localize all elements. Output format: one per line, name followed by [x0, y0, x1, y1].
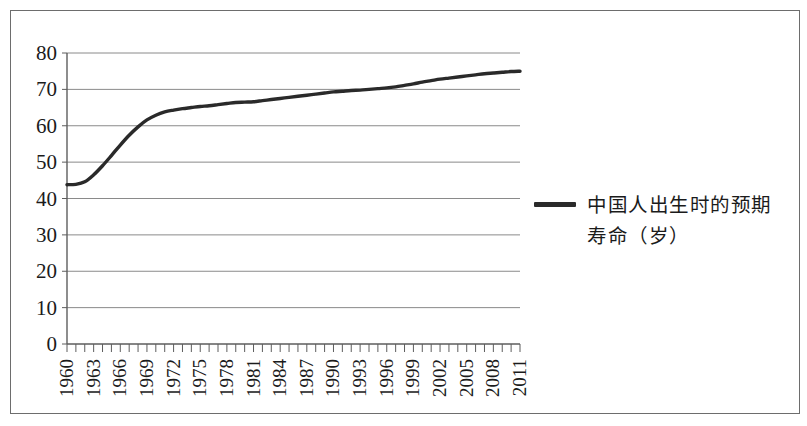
y-tick-label-0: 0 [47, 332, 58, 356]
x-tick-label-1990: 1990 [322, 359, 343, 397]
x-tick-label-1993: 1993 [349, 359, 370, 397]
x-tick-label-2005: 2005 [456, 359, 477, 397]
x-axis-tick-labels: 1960196319661969197219751978198119841987… [56, 359, 530, 398]
x-tick-label-1984: 1984 [269, 359, 290, 398]
legend-label: 中国人出生时的预期 寿命（岁） [587, 190, 772, 252]
y-tick-label-80: 80 [36, 41, 57, 65]
chart-legend: 中国人出生时的预期 寿命（岁） [534, 190, 796, 252]
series-line-life-expectancy [67, 71, 520, 184]
x-tick-label-1963: 1963 [83, 359, 104, 397]
x-tick-label-1972: 1972 [163, 359, 184, 397]
x-tick-label-2002: 2002 [429, 359, 450, 397]
x-tick-label-2011: 2011 [509, 359, 530, 396]
x-tick-label-1975: 1975 [189, 359, 210, 397]
y-tick-label-10: 10 [36, 296, 57, 320]
y-tick-label-50: 50 [36, 150, 57, 174]
x-tick-label-1978: 1978 [216, 359, 237, 397]
x-tick-label-1987: 1987 [296, 359, 317, 397]
x-tick-label-1969: 1969 [136, 359, 157, 397]
x-tick-label-1960: 1960 [56, 359, 77, 397]
y-tick-label-20: 20 [36, 259, 57, 283]
y-tick-label-60: 60 [36, 114, 57, 138]
y-tick-label-70: 70 [36, 77, 57, 101]
legend-line-swatch [534, 202, 576, 207]
x-tick-label-2008: 2008 [482, 359, 503, 397]
figure-page: 01020304050607080 1960196319661969197219… [0, 0, 807, 426]
x-tick-label-1999: 1999 [402, 359, 423, 397]
x-tick-label-1966: 1966 [109, 359, 130, 397]
x-tick-label-1981: 1981 [243, 359, 264, 397]
gridlines [67, 53, 520, 308]
y-axis-tick-labels: 01020304050607080 [36, 41, 67, 356]
x-tick-label-1996: 1996 [376, 359, 397, 397]
x-axis-ticks [67, 344, 520, 352]
y-tick-label-30: 30 [36, 223, 57, 247]
y-tick-label-40: 40 [36, 187, 57, 211]
